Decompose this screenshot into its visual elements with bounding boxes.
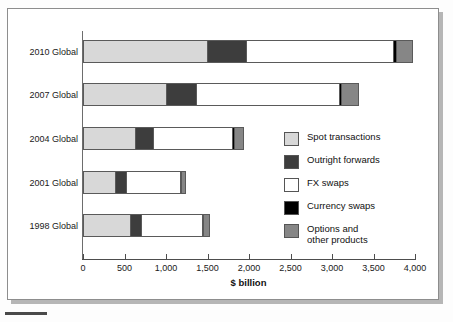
- x-tick-mark: [332, 254, 333, 260]
- bar-segment: [83, 127, 135, 150]
- figure-root: 05001,0001,5002,0002,5003,0003,5004,000 …: [0, 0, 453, 322]
- bar-segment: [234, 127, 244, 150]
- x-tick-mark: [291, 254, 292, 260]
- x-tick-label: 2,500: [271, 263, 311, 273]
- legend-item: Spot transactions: [284, 131, 434, 147]
- legend-swatch-icon: [284, 132, 299, 146]
- bar-segment: [153, 127, 232, 150]
- legend-swatch-icon: [284, 201, 299, 215]
- bar-segment: [115, 171, 126, 194]
- legend-label: Spot transactions: [307, 131, 380, 142]
- legend-label: Options and other products: [307, 223, 368, 245]
- legend-item: FX swaps: [284, 177, 434, 193]
- bar-segment: [83, 171, 115, 194]
- bar-segment: [196, 83, 338, 106]
- legend-label: FX swaps: [307, 177, 349, 188]
- x-tick-label: 4,000: [395, 263, 435, 273]
- bar-segment: [83, 83, 166, 106]
- x-axis-title: $ billion: [82, 277, 415, 288]
- figure-frame: 05001,0001,5002,0002,5003,0003,5004,000 …: [7, 8, 439, 300]
- x-tick-label: 1,500: [188, 263, 228, 273]
- plot-area: 05001,0001,5002,0002,5003,0003,5004,000 …: [8, 9, 440, 301]
- bar-segment: [141, 214, 202, 237]
- chart-legend: Spot transactionsOutright forwardsFX swa…: [284, 131, 434, 252]
- bar-segment: [396, 40, 413, 63]
- category-label: 2007 Global: [12, 90, 78, 100]
- bar-segment: [130, 214, 141, 237]
- bar-segment: [207, 40, 246, 63]
- category-label: 2010 Global: [12, 47, 78, 57]
- bar-segment: [166, 83, 196, 106]
- legend-item: Outright forwards: [284, 154, 434, 170]
- x-tick-mark: [125, 254, 126, 260]
- category-label: 2001 Global: [12, 178, 78, 188]
- legend-item: Options and other products: [284, 223, 434, 245]
- x-tick-mark: [83, 254, 84, 260]
- x-tick-mark: [415, 254, 416, 260]
- bar-segment: [126, 171, 180, 194]
- x-tick-label: 3,500: [354, 263, 394, 273]
- legend-swatch-icon: [284, 155, 299, 169]
- bar-segment: [83, 40, 207, 63]
- legend-label: Outright forwards: [307, 154, 380, 165]
- legend-label: Currency swaps: [307, 200, 375, 211]
- x-tick-mark: [166, 254, 167, 260]
- bar-segment: [83, 214, 130, 237]
- x-tick-mark: [208, 254, 209, 260]
- legend-swatch-icon: [284, 178, 299, 192]
- bar-segment: [203, 214, 210, 237]
- x-tick-mark: [249, 254, 250, 260]
- legend-item: Currency swaps: [284, 200, 434, 216]
- bar-segment: [181, 171, 186, 194]
- page-bottom-rule: [5, 312, 47, 315]
- x-tick-label: 2,000: [229, 263, 269, 273]
- bar-segment: [341, 83, 359, 106]
- category-label: 1998 Global: [12, 221, 78, 231]
- legend-swatch-icon: [284, 224, 299, 238]
- x-tick-label: 0: [63, 263, 103, 273]
- bar-segment: [246, 40, 392, 63]
- bar-segment: [135, 127, 152, 150]
- x-tick-label: 500: [105, 263, 145, 273]
- category-label: 2004 Global: [12, 134, 78, 144]
- x-tick-label: 1,000: [146, 263, 186, 273]
- x-tick-mark: [374, 254, 375, 260]
- x-tick-label: 3,000: [312, 263, 352, 273]
